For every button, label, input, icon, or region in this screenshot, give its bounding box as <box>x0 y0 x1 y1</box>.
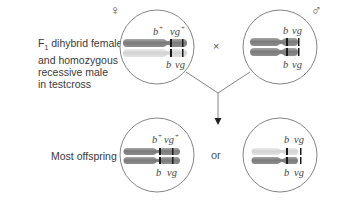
chromosome-top <box>250 38 300 46</box>
arrow-down-icon <box>215 118 222 125</box>
offspring-wildtype-circle: b+ vg+ b vg <box>120 118 194 192</box>
chromosome-bottom <box>124 157 181 164</box>
testcross-diagram: b+ vg+ b vg b vg b vg <box>0 0 337 210</box>
chromosome-top <box>123 39 187 47</box>
svg-text:b: b <box>156 167 161 178</box>
svg-text:vg: vg <box>164 134 174 145</box>
svg-text:b: b <box>283 25 288 36</box>
svg-text:vg: vg <box>170 26 180 37</box>
chromosome-top <box>252 148 302 155</box>
svg-text:vg: vg <box>167 167 177 178</box>
svg-text:+: + <box>159 24 163 32</box>
svg-text:+: + <box>181 24 185 32</box>
male-parent-circle: b vg b vg <box>243 10 317 84</box>
chromosome-bottom <box>123 49 187 57</box>
chromosome-top <box>124 148 181 155</box>
svg-text:vg: vg <box>292 25 302 36</box>
svg-text:+: + <box>158 132 162 140</box>
svg-text:+: + <box>175 132 179 140</box>
chromosome-bottom <box>252 157 302 164</box>
svg-text:b: b <box>166 59 171 70</box>
connector-lines <box>186 72 250 119</box>
svg-text:b: b <box>284 134 289 145</box>
svg-text:vg: vg <box>294 167 304 178</box>
svg-text:vg: vg <box>175 59 185 70</box>
offspring-recessive-circle: b vg b vg <box>243 118 317 192</box>
svg-text:b: b <box>284 167 289 178</box>
chromosome-bottom <box>250 48 300 56</box>
svg-text:b: b <box>152 134 157 145</box>
svg-text:b: b <box>283 59 288 70</box>
svg-text:vg: vg <box>292 59 302 70</box>
svg-text:b: b <box>153 26 158 37</box>
svg-text:vg: vg <box>294 134 304 145</box>
female-parent-circle: b+ vg+ b vg <box>120 10 194 84</box>
